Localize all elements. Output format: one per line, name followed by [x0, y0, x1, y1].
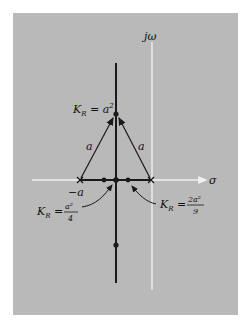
svg-text:9: 9	[193, 207, 198, 216]
left-gain-leader	[82, 185, 112, 207]
svg-text:2a²: 2a²	[187, 195, 201, 204]
right-gain-label: KR = 2a² 9	[159, 195, 204, 216]
left-real-point	[102, 178, 107, 183]
svg-text:a²: a²	[65, 202, 73, 211]
top-gain-label: KR = a2	[72, 102, 114, 118]
svg-text:KR = a2: KR = a2	[72, 102, 114, 118]
svg-text:4: 4	[67, 214, 73, 223]
root-locus-diagram: jω σ KR = a2 a a −a KR = a² 4	[0, 0, 250, 324]
right-side-line	[119, 118, 150, 178]
right-real-point	[126, 178, 131, 183]
lower-branch-point	[113, 242, 118, 247]
jw-axis-label: jω	[141, 30, 156, 43]
top-gain-point	[113, 111, 118, 116]
sigma-axis-label: σ	[209, 174, 217, 187]
svg-text:KR =: KR =	[36, 205, 63, 220]
left-gain-label: KR = a² 4	[36, 202, 78, 223]
breakaway-point	[113, 177, 119, 183]
right-side-label: a	[138, 140, 145, 153]
svg-text:KR =: KR =	[159, 198, 186, 213]
left-side-label: a	[86, 140, 93, 153]
neg-a-label: −a	[68, 186, 84, 199]
